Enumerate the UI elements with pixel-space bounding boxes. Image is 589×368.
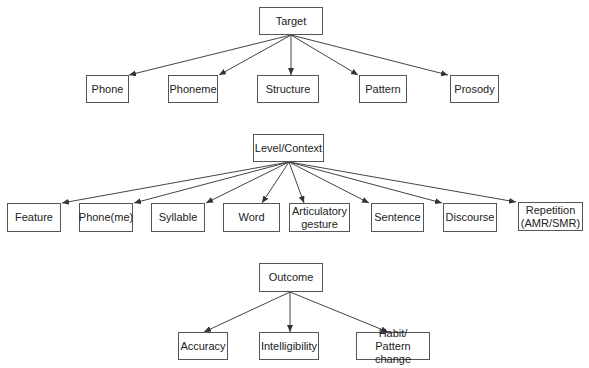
diagram-edges <box>0 0 589 368</box>
repetition-label: Repetition (AMR/SMR) <box>521 204 580 230</box>
arrow-level-context-to-discourse <box>289 162 442 203</box>
feature-box: Feature <box>7 203 61 232</box>
arrow-level-context-to-repetition <box>289 162 516 202</box>
word-box: Word <box>223 203 280 232</box>
phoneme-box: Phoneme <box>168 75 218 103</box>
intelligibility-label: Intelligibility <box>261 340 317 353</box>
discourse-box: Discourse <box>443 203 497 232</box>
arrow-outcome-to-accuracy <box>204 292 290 332</box>
arrow-target-to-pattern <box>291 35 358 75</box>
sentence-label: Sentence <box>374 211 420 224</box>
accuracy-box: Accuracy <box>178 332 228 360</box>
phone-box: Phone <box>86 75 129 103</box>
phoneme-level-box: Phone(me) <box>79 203 133 232</box>
arrow-target-to-phoneme <box>219 35 291 75</box>
discourse-label: Discourse <box>446 211 495 224</box>
repetition-box: Repetition (AMR/SMR) <box>518 202 583 231</box>
word-label: Word <box>238 211 264 224</box>
phoneme-level-label: Phone(me) <box>79 211 133 224</box>
level-context-box: Level/Context <box>253 134 324 162</box>
prosody-box: Prosody <box>450 75 499 103</box>
accuracy-label: Accuracy <box>180 340 225 353</box>
prosody-label: Prosody <box>454 83 494 96</box>
intelligibility-box: Intelligibility <box>259 332 319 360</box>
sentence-box: Sentence <box>371 203 424 232</box>
arrow-target-to-phone <box>129 35 291 75</box>
articulatory-gesture-label: Articulatory gesture <box>292 205 347 231</box>
outcome-box: Outcome <box>259 263 323 292</box>
arrow-level-context-to-syllable <box>206 162 289 203</box>
arrow-target-to-prosody <box>291 35 448 75</box>
pattern-label: Pattern <box>365 83 400 96</box>
feature-label: Feature <box>15 211 53 224</box>
syllable-label: Syllable <box>159 211 198 224</box>
target-box: Target <box>259 7 323 35</box>
structure-label: Structure <box>266 83 311 96</box>
habit-pattern-change-label: Habit/ Pattern change <box>357 327 429 366</box>
habit-pattern-change-box: Habit/ Pattern change <box>356 332 430 360</box>
syllable-box: Syllable <box>151 203 205 232</box>
arrow-level-context-to-feature <box>62 162 289 203</box>
phoneme-label: Phoneme <box>169 83 216 96</box>
outcome-label: Outcome <box>269 271 314 284</box>
articulatory-gesture-box: Articulatory gesture <box>289 203 350 232</box>
pattern-box: Pattern <box>359 75 407 103</box>
target-label: Target <box>276 15 307 28</box>
structure-box: Structure <box>257 75 319 103</box>
level-context-label: Level/Context <box>255 142 322 155</box>
arrow-level-context-to-sentence <box>289 162 369 203</box>
phone-label: Phone <box>92 83 124 96</box>
